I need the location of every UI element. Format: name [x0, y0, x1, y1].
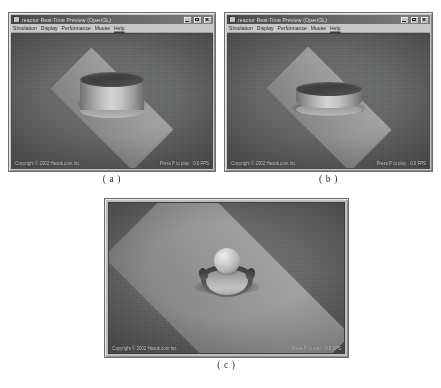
viewport-a[interactable]: Copyright © 2002 Havok.com Inc. Press P …: [11, 33, 213, 169]
sphere-body: [214, 248, 240, 274]
figure-container: reactor Real-Time Preview (OpenGL) Simul…: [0, 0, 441, 388]
menu-item-performance[interactable]: Performance: [278, 24, 307, 31]
menu-item-help[interactable]: Help: [330, 24, 340, 31]
panel-a: reactor Real-Time Preview (OpenGL) Simul…: [8, 12, 216, 172]
status-hint: Press P to play: [373, 160, 410, 166]
viewport-b[interactable]: Copyright © 2002 Havok.com Inc. Press P …: [227, 33, 430, 169]
statusbar-a: Copyright © 2002 Havok.com Inc. Press P …: [12, 159, 212, 168]
menubar-b: Simulation Display Performance Mouse Hel…: [227, 24, 430, 33]
menu-item-mouse[interactable]: Mouse: [311, 24, 326, 31]
menu-item-mouse[interactable]: Mouse: [95, 24, 110, 31]
menu-item-performance[interactable]: Performance: [62, 24, 91, 31]
preview-window-b: reactor Real-Time Preview (OpenGL) Simul…: [224, 12, 433, 172]
caption-b: ( b ): [224, 174, 433, 184]
status-fps: 0.0 FPS: [193, 160, 209, 166]
panel-c: Copyright © 2002 Havok.com Inc. Press P …: [104, 198, 349, 358]
cylinder-body: [80, 72, 144, 118]
app-icon: [229, 16, 236, 23]
status-fps: 0.0 FPS: [410, 160, 426, 166]
caption-c: ( c ): [104, 360, 349, 370]
menu-item-display[interactable]: Display: [257, 24, 274, 31]
maximize-button[interactable]: [410, 16, 419, 24]
status-hint: Press P to play: [288, 345, 325, 351]
menu-item-display[interactable]: Display: [41, 24, 58, 31]
menubar-a: Simulation Display Performance Mouse Hel…: [11, 24, 213, 33]
status-fps: 0.0 FPS: [325, 345, 341, 351]
statusbar-b: Copyright © 2002 Havok.com Inc. Press P …: [228, 159, 429, 168]
close-button[interactable]: [420, 16, 429, 24]
minimize-button[interactable]: [400, 16, 409, 24]
window-title: reactor Real-Time Preview (OpenGL): [22, 16, 183, 23]
app-icon: [13, 16, 20, 23]
preview-window-c: Copyright © 2002 Havok.com Inc. Press P …: [104, 198, 349, 358]
window-title: reactor Real-Time Preview (OpenGL): [238, 16, 400, 23]
viewport-c[interactable]: Copyright © 2002 Havok.com Inc. Press P …: [108, 202, 345, 354]
status-copyright: Copyright © 2002 Havok.com Inc.: [15, 160, 156, 166]
minimize-button[interactable]: [183, 16, 192, 24]
menu-item-simulation[interactable]: Simulation: [229, 24, 253, 31]
cylinder-body-deformed: [296, 82, 362, 116]
cylinder-top-cap: [296, 82, 362, 96]
preview-window-a: reactor Real-Time Preview (OpenGL) Simul…: [8, 12, 216, 172]
panel-b: reactor Real-Time Preview (OpenGL) Simul…: [224, 12, 433, 172]
menu-item-simulation[interactable]: Simulation: [13, 24, 37, 31]
statusbar-c: Copyright © 2002 Havok.com Inc. Press P …: [109, 344, 344, 353]
window-controls-b: [400, 16, 429, 24]
maximize-button[interactable]: [193, 16, 202, 24]
status-hint: Press P to play: [156, 160, 193, 166]
titlebar-b[interactable]: reactor Real-Time Preview (OpenGL): [227, 15, 430, 24]
cylinder-top-cap: [80, 72, 144, 87]
window-controls-a: [183, 16, 212, 24]
titlebar-a[interactable]: reactor Real-Time Preview (OpenGL): [11, 15, 213, 24]
status-copyright: Copyright © 2002 Havok.com Inc.: [231, 160, 373, 166]
close-button[interactable]: [203, 16, 212, 24]
caption-a: ( a ): [8, 174, 216, 184]
menu-item-help[interactable]: Help: [114, 24, 124, 31]
status-copyright: Copyright © 2002 Havok.com Inc.: [112, 345, 288, 351]
